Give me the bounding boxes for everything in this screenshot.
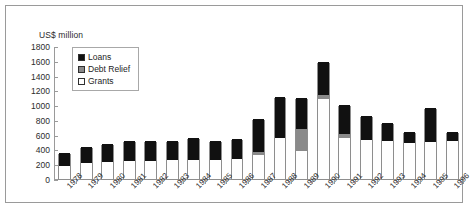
bar-slot — [269, 47, 291, 180]
table-row[interactable] — [317, 63, 330, 180]
x-axis-tick-mark — [119, 180, 120, 184]
x-axis-tick-mark — [420, 180, 421, 184]
bar-segment-loans — [210, 141, 221, 159]
legend-swatch-debt-icon — [78, 66, 85, 73]
bar-segment-debt-relief — [318, 95, 329, 99]
bar-segment-loans — [81, 147, 92, 163]
table-row[interactable] — [403, 133, 416, 180]
legend-label: Grants — [88, 77, 114, 86]
legend-swatch-grants-icon — [78, 78, 85, 85]
legend-label: Debt Relief — [88, 65, 130, 74]
bar-slot — [441, 47, 463, 180]
x-axis-tick-mark — [140, 180, 141, 184]
bar-segment-loans — [232, 139, 243, 159]
legend-item-debt[interactable]: Debt Relief — [78, 63, 130, 75]
bar-slot — [420, 47, 442, 180]
bar-slot — [398, 47, 420, 180]
bar-segment-grants — [361, 140, 372, 179]
y-axis-tick-label: 1200 — [31, 86, 50, 96]
x-axis-tick-mark — [97, 180, 98, 184]
y-axis-title: US$ million — [39, 30, 83, 40]
x-axis-tick-mark — [441, 180, 442, 184]
bar-segment-loans — [382, 123, 393, 141]
y-axis-tick-label: 400 — [36, 145, 50, 155]
y-axis-tick-mark — [54, 47, 58, 48]
x-axis-tick-mark — [334, 180, 335, 184]
bar-segment-loans — [339, 105, 350, 135]
y-axis-tick-mark — [54, 180, 58, 181]
y-axis-tick-label: 0 — [45, 175, 50, 185]
table-row[interactable] — [360, 117, 373, 180]
bar-slot — [334, 47, 356, 180]
bar-segment-loans — [361, 116, 372, 140]
bar-segment-grants — [382, 141, 393, 179]
table-row[interactable] — [144, 142, 157, 180]
bar-segment-loans — [124, 141, 135, 161]
x-axis-tick-mark — [463, 180, 464, 184]
bar-segment-grants — [447, 141, 458, 179]
bar-segment-debt-relief — [339, 134, 350, 137]
table-row[interactable] — [446, 133, 459, 180]
y-axis-tick-label: 1800 — [31, 42, 50, 52]
legend-item-loans[interactable]: Loans — [78, 51, 130, 63]
bar-segment-loans — [425, 108, 436, 142]
x-axis-tick-mark — [76, 180, 77, 184]
bar-segment-grants — [404, 143, 415, 179]
y-axis-tick-label: 600 — [36, 131, 50, 141]
bar-slot — [291, 47, 313, 180]
x-axis-tick-labels: 1978197919801981198219831984198519861987… — [54, 184, 463, 211]
x-axis-tick-mark — [269, 180, 270, 184]
bar-slot — [355, 47, 377, 180]
y-axis-tick-label: 200 — [36, 160, 50, 170]
bar-segment-loans — [167, 141, 178, 161]
legend-swatch-loans-icon — [78, 54, 85, 61]
y-axis-tick-mark — [54, 165, 58, 166]
bar-segment-loans — [145, 141, 156, 161]
bar-segment-loans — [102, 144, 113, 162]
table-row[interactable] — [338, 106, 351, 180]
table-row[interactable] — [58, 154, 71, 180]
y-axis-tick-label: 1400 — [31, 72, 50, 82]
bar-segment-loans — [447, 132, 458, 140]
y-axis-tick-mark — [54, 91, 58, 92]
table-row[interactable] — [274, 98, 287, 180]
table-row[interactable] — [187, 139, 200, 180]
table-row[interactable] — [295, 99, 308, 180]
bar-segment-grants — [318, 99, 329, 179]
legend-item-grants[interactable]: Grants — [78, 75, 130, 87]
x-axis-tick-mark — [183, 180, 184, 184]
x-axis-tick-mark — [312, 180, 313, 184]
bar-segment-debt-relief — [296, 129, 307, 151]
bar-slot — [248, 47, 270, 180]
table-row[interactable] — [381, 124, 394, 180]
bar-slot — [205, 47, 227, 180]
bar-segment-grants — [296, 151, 307, 179]
bar-segment-loans — [253, 119, 264, 152]
bar-segment-grants — [339, 138, 350, 179]
y-axis-tick-mark — [54, 121, 58, 122]
bar-segment-grants — [59, 166, 70, 179]
y-axis-tick-mark — [54, 150, 58, 151]
bar-segment-grants — [425, 142, 436, 179]
y-axis-tick-mark — [54, 136, 58, 137]
bar-slot — [183, 47, 205, 180]
bar-slot — [162, 47, 184, 180]
bar-segment-loans — [404, 132, 415, 143]
legend-label: Loans — [88, 53, 111, 62]
y-axis-tick-label: 800 — [36, 116, 50, 126]
table-row[interactable] — [231, 140, 244, 180]
x-axis-tick-mark — [291, 180, 292, 184]
bar-segment-loans — [59, 153, 70, 166]
bar-segment-loans — [188, 138, 199, 161]
y-axis-tick-mark — [54, 62, 58, 63]
chart-frame: US$ million 0200400600800100012001400160… — [5, 5, 463, 203]
bar-slot — [226, 47, 248, 180]
table-row[interactable] — [424, 109, 437, 180]
bar-slot — [377, 47, 399, 180]
x-axis-tick-mark — [398, 180, 399, 184]
bar-segment-loans — [296, 98, 307, 129]
bar-segment-loans — [275, 97, 286, 138]
bar-slot — [312, 47, 334, 180]
table-row[interactable] — [252, 120, 265, 180]
chart-legend: LoansDebt ReliefGrants — [72, 47, 139, 91]
